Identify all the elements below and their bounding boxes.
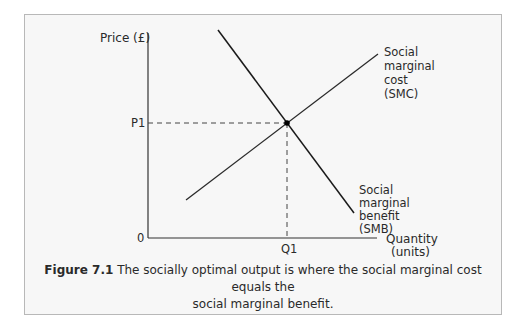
caption-text-line1: The socially optimal output is where the… bbox=[117, 263, 482, 294]
q1-label: Q1 bbox=[281, 243, 297, 256]
y-axis-label: Price (£) bbox=[100, 32, 150, 45]
caption-label: Figure 7.1 bbox=[44, 263, 113, 277]
origin-label: 0 bbox=[137, 232, 144, 245]
equilibrium-point bbox=[284, 120, 290, 126]
smc-curve bbox=[186, 54, 378, 200]
caption-text-line2: social marginal benefit. bbox=[24, 296, 502, 313]
figure-caption: Figure 7.1 The socially optimal output i… bbox=[24, 262, 502, 313]
x-axis-label-line2: (units) bbox=[391, 246, 430, 259]
p1-label: P1 bbox=[131, 117, 145, 130]
